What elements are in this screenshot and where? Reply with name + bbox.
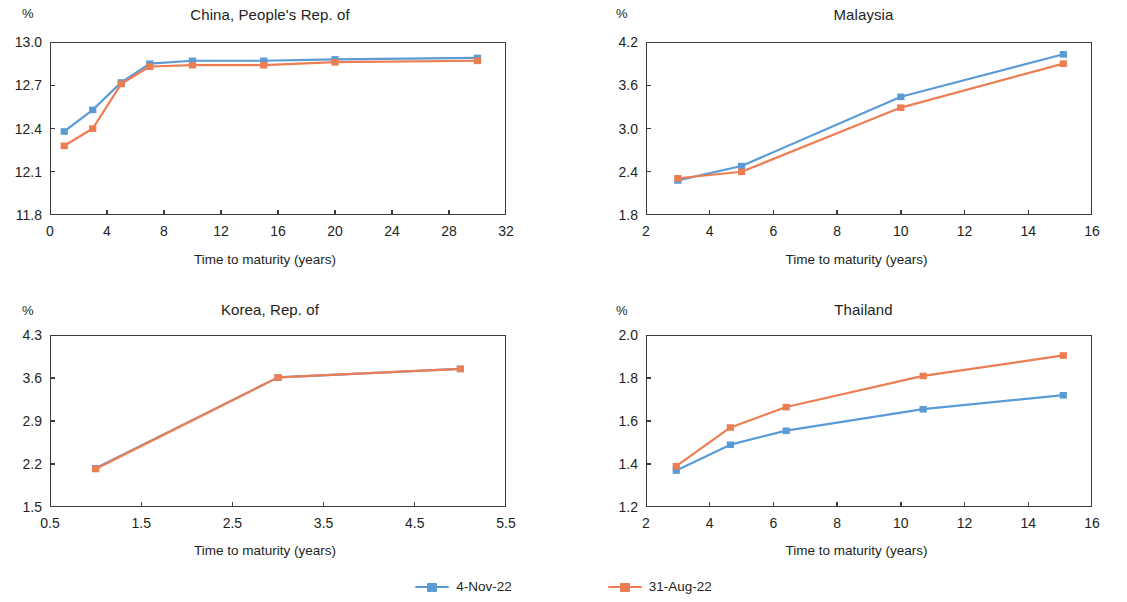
legend-entry-4-Nov-22[interactable]: 4-Nov-22 xyxy=(415,579,512,594)
data-point-marker xyxy=(61,128,68,135)
data-point-marker xyxy=(727,441,734,448)
chart-panel-malaysia: Malaysia % Time to maturity (years) 1.82… xyxy=(600,0,1127,290)
legend-entry-31-Aug-22[interactable]: 31-Aug-22 xyxy=(608,579,712,594)
data-point-marker xyxy=(727,424,734,431)
series-layer-china xyxy=(0,0,560,290)
data-point-marker xyxy=(920,373,927,380)
figure-legend: 4-Nov-2231-Aug-22 xyxy=(0,579,1127,594)
chart-panel-korea: Korea, Rep. of % Time to maturity (years… xyxy=(0,295,560,557)
data-point-marker xyxy=(89,107,96,114)
data-point-marker xyxy=(146,63,153,70)
series-line-4-Nov-22 xyxy=(676,395,1063,470)
data-point-marker xyxy=(897,94,904,101)
legend-marker xyxy=(620,583,630,592)
series-line-4-Nov-22 xyxy=(678,54,1063,180)
data-point-marker xyxy=(897,104,904,111)
series-layer-thailand xyxy=(600,295,1127,557)
series-line-4-Nov-22 xyxy=(96,369,461,469)
series-line-31-Aug-22 xyxy=(676,355,1063,466)
data-point-marker xyxy=(673,463,680,470)
legend-label: 4-Nov-22 xyxy=(456,579,512,594)
data-point-marker xyxy=(189,62,196,69)
data-point-marker xyxy=(61,143,68,150)
data-point-marker xyxy=(1060,392,1067,399)
series-line-31-Aug-22 xyxy=(96,369,461,469)
series-line-4-Nov-22 xyxy=(64,58,477,132)
data-point-marker xyxy=(783,427,790,434)
chart-panel-thailand: Thailand % Time to maturity (years) 1.21… xyxy=(600,295,1127,557)
series-line-31-Aug-22 xyxy=(64,61,477,146)
chart-panel-china: China, People's Rep. of % Time to maturi… xyxy=(0,0,560,290)
data-point-marker xyxy=(1060,51,1067,58)
series-line-31-Aug-22 xyxy=(678,64,1063,179)
data-point-marker xyxy=(331,59,338,66)
data-point-marker xyxy=(118,81,125,88)
data-point-marker xyxy=(1060,352,1067,359)
data-point-marker xyxy=(738,163,745,170)
series-layer-korea xyxy=(0,295,560,557)
data-point-marker xyxy=(1060,60,1067,67)
data-point-marker xyxy=(92,466,99,473)
legend-swatch-icon xyxy=(608,581,642,593)
data-point-marker xyxy=(260,62,267,69)
data-point-marker xyxy=(674,175,681,182)
data-point-marker xyxy=(89,125,96,132)
legend-marker xyxy=(427,583,437,592)
legend-label: 31-Aug-22 xyxy=(649,579,712,594)
data-point-marker xyxy=(457,366,464,373)
data-point-marker xyxy=(474,58,481,65)
figure-root: China, People's Rep. of % Time to maturi… xyxy=(0,0,1127,602)
data-point-marker xyxy=(920,406,927,413)
series-layer-malaysia xyxy=(600,0,1127,290)
data-point-marker xyxy=(783,404,790,411)
data-point-marker xyxy=(274,374,281,381)
data-point-marker xyxy=(738,169,745,176)
legend-swatch-icon xyxy=(415,581,449,593)
